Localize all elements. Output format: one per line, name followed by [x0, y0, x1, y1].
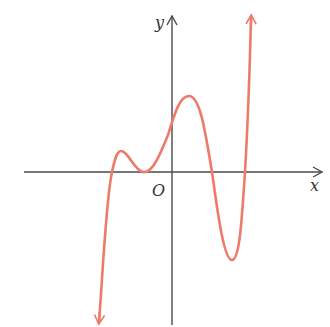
origin-label: O — [152, 181, 165, 200]
y-axis-label: y — [154, 13, 165, 32]
curve-arrow-down — [99, 310, 100, 324]
x-axis-label: x — [310, 176, 319, 195]
function-curve — [99, 17, 251, 322]
graph-canvas: y x O — [0, 0, 330, 327]
